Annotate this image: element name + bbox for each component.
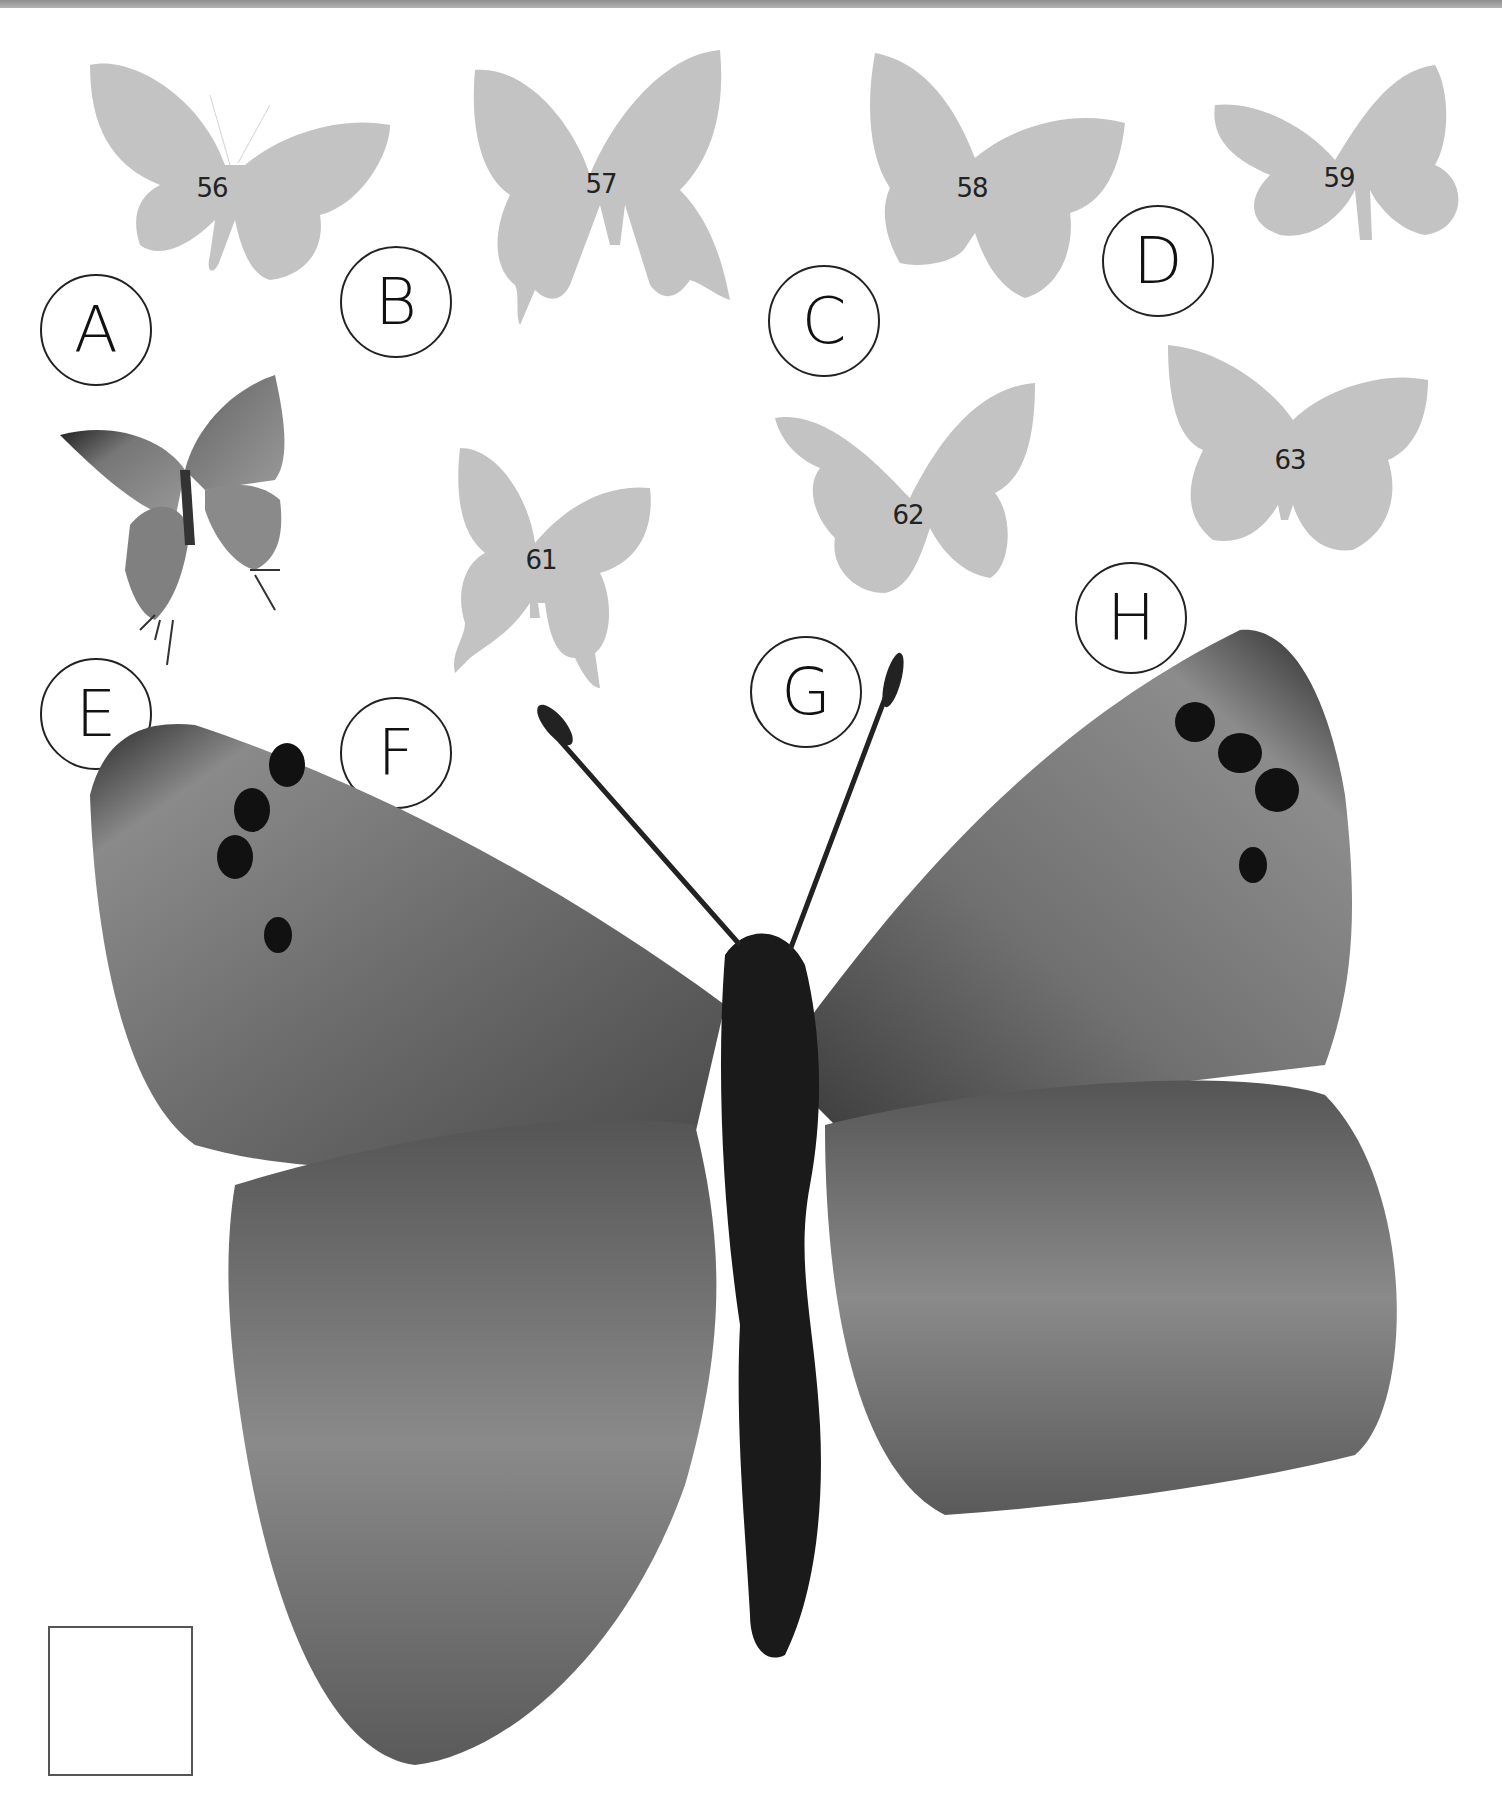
large-butterfly-photo[interactable] (85, 625, 1495, 1790)
butterfly-silhouette-icon (770, 378, 1040, 598)
silhouette-number: 61 (525, 545, 556, 575)
letter-circle-b[interactable]: B (340, 246, 452, 358)
silhouette-number: 59 (1323, 163, 1354, 193)
silhouette-number: 62 (892, 500, 923, 530)
butterfly-silhouette-icon (1210, 50, 1475, 250)
answer-box[interactable] (48, 1626, 193, 1776)
small-butterfly-photo[interactable] (55, 370, 325, 665)
page-top-edge (0, 0, 1502, 8)
silhouette-number: 58 (956, 173, 987, 203)
silhouette-56[interactable] (70, 45, 395, 280)
letter-circle-d[interactable]: D (1102, 205, 1214, 317)
silhouette-58[interactable] (860, 48, 1130, 298)
silhouette-59[interactable] (1210, 50, 1475, 250)
butterfly-silhouette-icon (70, 45, 395, 280)
silhouette-number: 63 (1274, 445, 1305, 475)
letter-circle-c[interactable]: C (768, 265, 880, 377)
silhouette-62[interactable] (770, 378, 1040, 598)
hairstreak-butterfly-icon (55, 370, 325, 665)
silhouette-number: 57 (585, 169, 616, 199)
blue-butterfly-closeup-icon (85, 625, 1495, 1790)
butterfly-silhouette-icon (860, 48, 1130, 298)
silhouette-number: 56 (196, 173, 227, 203)
